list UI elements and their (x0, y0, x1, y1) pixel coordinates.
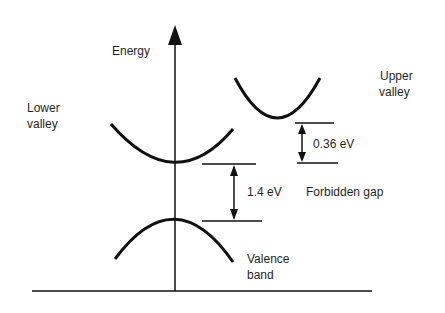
energy-axis-label: Energy (112, 44, 150, 58)
arrow-down-icon (230, 209, 238, 220)
forbidden-gap-label: Forbidden gap (306, 185, 383, 199)
lower-valley-curve (111, 124, 233, 162)
arrow-up-icon (230, 165, 238, 176)
upper-valley-label-line2: valley (379, 85, 410, 99)
upper-valley-curve (235, 78, 320, 118)
arrow-down-icon (298, 152, 306, 162)
valence-band-label-line2: band (247, 268, 274, 282)
band-diagram (0, 0, 445, 313)
gap-value: 1.4 eV (247, 185, 282, 199)
arrow-up-icon (168, 25, 182, 45)
upper-valley-label-line1: Upper (380, 69, 413, 83)
lower-valley-label-line1: Lower (27, 101, 60, 115)
lower-valley-label-line2: valley (27, 117, 58, 131)
valence-band-label-line1: Valence (247, 252, 289, 266)
valley-separation-value: 0.36 eV (313, 137, 354, 151)
valence-band-curve (115, 219, 233, 262)
arrow-up-icon (298, 124, 306, 134)
